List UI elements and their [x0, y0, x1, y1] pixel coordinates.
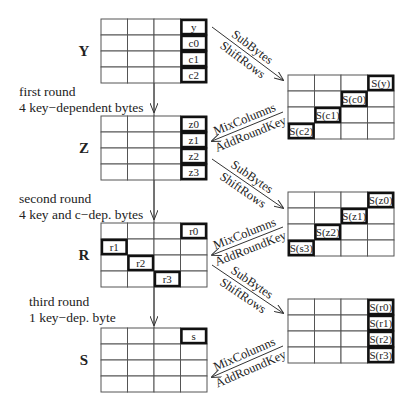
grid-cell	[154, 164, 181, 180]
grid-cell	[101, 67, 128, 83]
cell-label: S(r2)	[369, 333, 392, 346]
grid-cell	[288, 315, 315, 331]
sbox-grid-2: S(z0)S(z1)S(z2)S(s3)	[288, 192, 394, 256]
grid-cell	[368, 208, 395, 224]
forward-arrow-1: SubBytesShiftRows	[212, 27, 283, 81]
state-label-y: Y	[79, 43, 90, 59]
grid-cell	[288, 331, 315, 347]
grid-cell	[315, 208, 342, 224]
grid-cell	[181, 255, 208, 271]
cell-label: z0	[189, 118, 200, 130]
grid-cell	[128, 116, 155, 132]
grid-cell	[315, 347, 342, 363]
cell-label: S(z2)	[316, 226, 340, 239]
grid-cell	[101, 19, 128, 35]
grid-cell	[154, 19, 181, 35]
cell-label: S(c0)	[342, 93, 366, 106]
grid-cell	[181, 344, 208, 360]
grid-cell	[128, 328, 155, 344]
grid-cell	[315, 240, 342, 256]
grid-cell	[341, 240, 368, 256]
grid-cell	[101, 360, 128, 376]
cell-label: r1	[110, 241, 119, 253]
cell-label: S(r1)	[369, 317, 392, 330]
grid-cell	[315, 123, 342, 139]
grid-cell	[128, 19, 155, 35]
cell-label: z3	[189, 166, 200, 178]
cell-label: r3	[163, 273, 173, 285]
cell-label: y	[191, 21, 197, 33]
cell-label: s	[192, 330, 196, 342]
state-grid-z: z0z1z2z3	[101, 116, 207, 180]
cell-label: S(r3)	[369, 349, 392, 362]
grid-cell	[288, 75, 315, 91]
forward-arrow-2: SubBytesShiftRows	[212, 158, 283, 211]
forward-arrow-3: SubBytesShiftRows	[212, 263, 283, 316]
grid-cell	[101, 35, 128, 51]
state-grid-s: s	[101, 328, 207, 392]
grid-cell	[154, 328, 181, 344]
grid-cell	[128, 67, 155, 83]
grid-cell	[128, 344, 155, 360]
grid-cell	[368, 240, 395, 256]
grid-cell	[154, 51, 181, 67]
state-label-s: S	[80, 352, 88, 368]
grid-cell	[368, 107, 395, 123]
grid-cell	[341, 192, 368, 208]
grid-cell	[341, 299, 368, 315]
backward-arrow-1: MixColumnsAddRoundKey	[211, 100, 289, 155]
grid-cell	[288, 208, 315, 224]
grid-cell	[315, 91, 342, 107]
round-note-desc: 4 key−dependent bytes	[19, 100, 144, 115]
grid-cell	[154, 116, 181, 132]
state-label-r: R	[79, 247, 90, 263]
grid-cell	[154, 239, 181, 255]
grid-cell	[101, 51, 128, 67]
grid-cell	[101, 255, 128, 271]
cell-label: S(c2)	[289, 125, 313, 138]
cell-label: c2	[189, 69, 199, 81]
cell-label: r2	[136, 257, 145, 269]
grid-cell	[154, 223, 181, 239]
grid-cell	[315, 299, 342, 315]
round-note-title: third round	[29, 294, 90, 309]
grid-cell	[181, 360, 208, 376]
grid-cell	[341, 224, 368, 240]
grid-cell	[368, 224, 395, 240]
grid-cell	[368, 123, 395, 139]
grid-cell	[315, 331, 342, 347]
backward-arrow-2: MixColumnsAddRoundKey	[211, 215, 289, 269]
round-note-desc: 4 key and c−dep. bytes	[19, 207, 143, 222]
grid-cell	[101, 116, 128, 132]
grid-cell	[341, 123, 368, 139]
cell-label: S(z1)	[342, 210, 366, 223]
grid-cell	[154, 67, 181, 83]
sbox-grid-3: S(r0)S(r1)S(r2)S(r3)	[288, 299, 394, 363]
grid-cell	[101, 132, 128, 148]
grid-cell	[101, 328, 128, 344]
cell-label: r0	[189, 225, 199, 237]
grid-cell	[341, 347, 368, 363]
cell-label: S(s3)	[290, 242, 314, 255]
grid-cell	[181, 271, 208, 287]
cell-label: S(c1)	[316, 109, 340, 122]
sbox-grid-1: S(y)S(c0)S(c1)S(c2)	[288, 75, 394, 139]
round-note-title: second round	[19, 191, 92, 206]
grid-cell	[101, 148, 128, 164]
grid-cell	[101, 164, 128, 180]
grid-cell	[128, 35, 155, 51]
cell-label: S(y)	[371, 77, 390, 90]
grid-cell	[128, 376, 155, 392]
grid-cell	[288, 91, 315, 107]
grid-cell	[154, 255, 181, 271]
grid-cell	[101, 344, 128, 360]
grid-cell	[128, 223, 155, 239]
state-grid-r: r0r1r2r3	[101, 223, 207, 287]
grid-cell	[288, 192, 315, 208]
grid-cell	[288, 224, 315, 240]
grid-cell	[288, 299, 315, 315]
grid-cell	[128, 51, 155, 67]
grid-cell	[341, 107, 368, 123]
grid-cell	[315, 192, 342, 208]
cell-label: S(r0)	[369, 301, 392, 314]
